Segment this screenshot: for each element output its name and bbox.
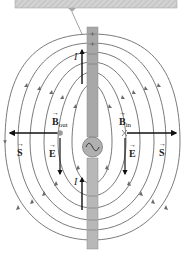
e-label-right: E (129, 149, 136, 159)
b-out-label: Bout (52, 117, 68, 129)
ac-source (83, 137, 103, 157)
b-in-cross-icon (122, 130, 127, 136)
s-label-left: S (17, 148, 23, 158)
e-label-left: E (49, 149, 56, 159)
current-label-bottom: I (74, 177, 77, 187)
s-label-right: S (159, 148, 165, 158)
b-in-label: Bin (119, 117, 131, 129)
b-out-dot-icon (57, 130, 63, 136)
current-label-top: I (74, 52, 77, 62)
dipole-radiation-diagram (0, 0, 185, 254)
